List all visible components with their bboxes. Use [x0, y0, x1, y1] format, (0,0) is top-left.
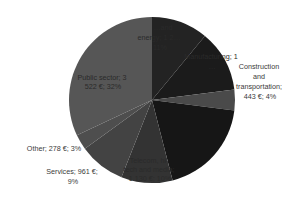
label-telecom: Telecom, hi- tech and media; 1 130 €; 10…	[123, 156, 176, 183]
pie-chart: …and energy; 1 2… 11% Manufacturing; 1 ……	[0, 0, 301, 198]
label-construction: Construction and transportation; 443 €; …	[236, 62, 284, 101]
label-public-sector: Public sector; 3 522 €; 32%	[77, 73, 128, 91]
label-other: Other; 278 €; 3%	[27, 144, 82, 153]
label-services: Services; 961 €; 9%	[46, 167, 100, 186]
